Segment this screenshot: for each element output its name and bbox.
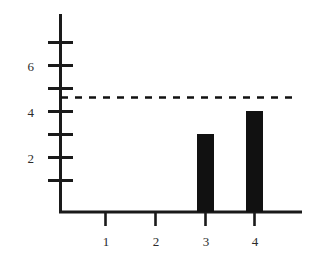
bar-chart-figure: 6 4 2 1 2 3 4 <box>0 0 320 264</box>
x-axis-label-3: 3 <box>196 235 216 248</box>
chart-canvas <box>0 0 320 264</box>
bar-3 <box>197 134 214 212</box>
y-axis-label-2: 2 <box>18 152 34 165</box>
x-axis-label-2: 2 <box>146 235 166 248</box>
x-axis-label-1: 1 <box>96 235 116 248</box>
y-axis-label-6: 6 <box>18 60 34 73</box>
y-axis-label-4: 4 <box>18 106 34 119</box>
x-axis-label-4: 4 <box>245 235 265 248</box>
bar-4 <box>246 111 263 212</box>
chart-background <box>0 0 320 264</box>
